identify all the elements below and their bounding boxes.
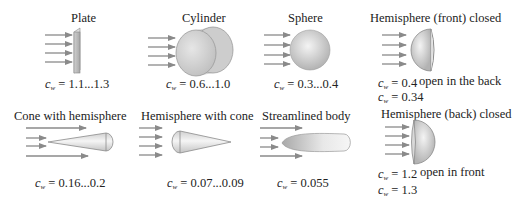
body-label: Streamlined body xyxy=(262,110,351,123)
cw-value: cw = 1.2 xyxy=(378,168,417,182)
cone-hemisphere-diagram xyxy=(20,124,120,164)
cw-value: cw = 0.4 xyxy=(378,77,417,91)
sphere-diagram xyxy=(262,28,332,78)
note-open-back: open in the back xyxy=(419,75,501,88)
hemisphere-front-diagram xyxy=(380,28,450,78)
cw-value: cw = 0.16...0.2 xyxy=(35,177,105,191)
cylinder-diagram xyxy=(145,26,240,78)
body-label: Sphere xyxy=(288,12,323,25)
cw-value: cw = 0.055 xyxy=(277,177,329,191)
body-label: Cone with hemisphere xyxy=(14,110,126,123)
cw-value: cw = 1.1...1.3 xyxy=(45,78,109,92)
body-label: Plate xyxy=(71,12,96,25)
hemisphere-back-diagram xyxy=(383,120,453,170)
cw-value: cw = 0.3...0.4 xyxy=(274,78,338,92)
hemisphere-cone-diagram xyxy=(137,124,237,164)
body-label: Hemisphere (front) closed xyxy=(370,12,501,25)
streamlined-diagram xyxy=(258,124,358,164)
cw-value: cw = 0.07...0.09 xyxy=(167,177,244,191)
cw-value-alt: cw = 0.34 xyxy=(378,91,423,105)
cw-value: cw = 0.6...1.0 xyxy=(166,78,230,92)
body-label: Hemisphere (back) closed xyxy=(381,108,512,121)
body-label: Hemisphere with cone xyxy=(141,110,253,123)
body-label: Cylinder xyxy=(182,12,226,25)
plate-diagram xyxy=(40,28,100,78)
note-open-front: open in front xyxy=(420,166,485,179)
cw-value-alt: cw = 1.3 xyxy=(378,184,417,198)
